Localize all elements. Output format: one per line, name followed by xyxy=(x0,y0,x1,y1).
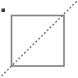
diagram-svg xyxy=(0,0,78,78)
figure-canvas: Square with dashed diagonal A gray squar… xyxy=(0,0,78,78)
corner-marker-dot xyxy=(2,9,6,13)
